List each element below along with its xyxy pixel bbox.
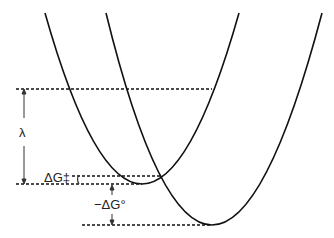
lambda-label: λ [19, 125, 26, 140]
driving-force-label: −ΔG° [94, 197, 126, 212]
lambda-arrowhead-down-icon [22, 179, 26, 184]
activation-brace-icon [78, 175, 80, 184]
product-parabola [106, 13, 322, 225]
reactant-parabola [45, 13, 239, 184]
driving-force-arrowhead-down-icon [110, 220, 114, 225]
lambda-arrowhead-up-icon [22, 89, 26, 94]
marcus-diagram: λ ΔG‡ −ΔG° [0, 0, 334, 238]
activation-energy-label: ΔG‡ [44, 170, 70, 185]
driving-force-arrowhead-up-icon [110, 185, 114, 190]
